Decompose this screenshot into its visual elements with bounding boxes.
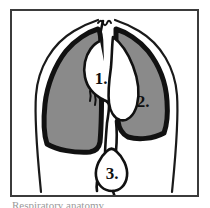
diagram-frame: 1. 2. 3. xyxy=(10,9,199,197)
chest-diagram: 1. 2. 3. xyxy=(12,11,197,195)
figure-caption-text: Respiratory anatomy xyxy=(12,201,162,208)
callout-1-label: 1. xyxy=(95,69,108,88)
figure-caption: Respiratory anatomy xyxy=(12,201,162,208)
callout-2-label: 2. xyxy=(137,92,150,111)
figure-root: 1. 2. 3. Respiratory anatomy xyxy=(0,0,210,208)
callout-3-label: 3. xyxy=(106,164,119,183)
